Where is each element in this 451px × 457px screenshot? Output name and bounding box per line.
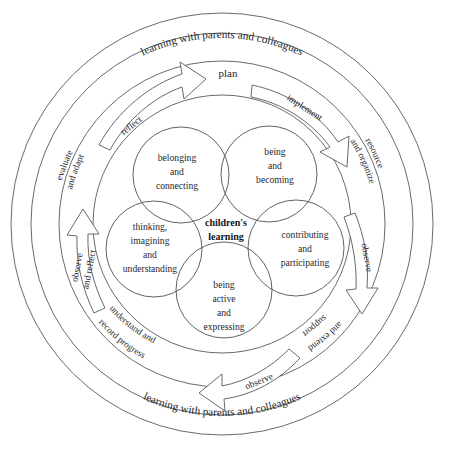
arrow-observe-right: observe (344, 213, 378, 314)
venn-label-being-active-line4: expressing (203, 321, 244, 332)
venn-label-contributing-line2: and (298, 243, 312, 254)
venn-label-being-active-line2: active (213, 293, 236, 304)
venn-label-being-active-line3: and (217, 307, 231, 318)
venn-label-belonging-line1: belonging (158, 152, 197, 163)
venn-label-contributing-line1: contributing (282, 229, 329, 240)
venn-label-belonging: belonging and connecting (156, 152, 198, 191)
venn-label-thinking: thinking, imagining and understanding (123, 221, 178, 274)
venn-label-belonging-line3: connecting (156, 180, 198, 191)
venn-circle-contributing (248, 200, 344, 296)
venn-label-contributing: contributing and participating (281, 229, 330, 268)
venn-label-being-active: being active and expressing (203, 279, 244, 332)
learning-cycle-diagram: learning with parents and colleagues lea… (0, 0, 451, 457)
venn-label-belonging-line2: and (170, 166, 184, 177)
venn-label-thinking-line4: understanding (123, 263, 178, 274)
venn-label-contributing-line3: participating (281, 257, 330, 268)
diagram-root: learning with parents and colleagues lea… (0, 0, 451, 457)
center-label-line2: learning (208, 231, 244, 242)
venn-label-being-active-line1: being (213, 279, 235, 290)
venn-label-being-becoming: being and becoming (256, 146, 294, 185)
venn-label-thinking-line1: thinking, (133, 221, 167, 232)
outer-ring-top-text: learning with parents and colleagues (139, 28, 306, 58)
center-label-childrens-learning: children's learning (205, 217, 247, 242)
venn-label-thinking-line2: imagining (131, 235, 170, 246)
center-label-line1: children's (205, 217, 247, 228)
plan-label: plan (219, 67, 238, 79)
venn-label-being-becoming-line3: becoming (256, 174, 294, 185)
venn-label-being-becoming-line1: being (264, 146, 286, 157)
venn-label-thinking-line3: and (143, 249, 157, 260)
venn-label-being-becoming-line2: and (268, 160, 282, 171)
arrow-observe-and-reflect: observe and reflect (67, 209, 105, 313)
